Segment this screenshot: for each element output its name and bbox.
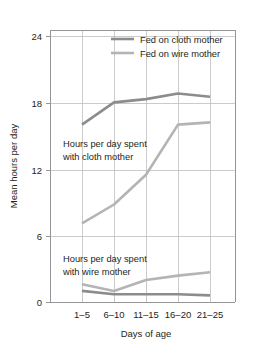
wire-mother-annotation: Hours per day spent with wire mother <box>62 254 147 277</box>
x-tick-label-21-25: 21–25 <box>197 309 223 320</box>
legend-label-cloth: Fed on cloth mother <box>140 35 223 45</box>
y-tick-label-6: 6 <box>37 231 42 242</box>
cloth-mother-annotation-line-1: Hours per day spent <box>63 139 147 149</box>
chart-container: 24 18 12 6 0 Mean hours per day 1–5 6–10… <box>0 0 274 360</box>
x-axis-tick-labels: 1–5 6–10 11–15 16–20 21–25 <box>74 309 223 320</box>
x-tick-label-1-5: 1–5 <box>74 309 90 320</box>
y-tick-label-24: 24 <box>31 31 42 42</box>
line-chart: 24 18 12 6 0 Mean hours per day 1–5 6–10… <box>0 0 274 360</box>
horizontal-gridlines <box>50 36 235 236</box>
y-axis-ticks <box>46 36 50 302</box>
x-tick-label-16-20: 16–20 <box>165 309 191 320</box>
x-tick-label-6-10: 6–10 <box>103 309 124 320</box>
y-axis-tick-labels: 24 18 12 6 0 <box>31 31 42 308</box>
y-tick-label-18: 18 <box>31 98 42 109</box>
y-axis-title: Mean hours per day <box>8 124 19 209</box>
x-axis-title: Days of age <box>121 328 172 339</box>
wire-mother-annotation-line-1: Hours per day spent <box>63 254 147 264</box>
cloth-mother-annotation: Hours per day spent with cloth mother <box>62 139 147 162</box>
x-tick-label-11-15: 11–15 <box>133 309 159 320</box>
legend: Fed on cloth mother Fed on wire mother <box>111 35 223 59</box>
cloth-mother-annotation-line-2: with cloth mother <box>62 152 133 162</box>
y-tick-label-0: 0 <box>37 297 42 308</box>
legend-label-wire: Fed on wire mother <box>140 49 220 59</box>
wire-mother-annotation-line-2: with wire mother <box>62 267 131 277</box>
y-tick-label-12: 12 <box>31 165 42 176</box>
